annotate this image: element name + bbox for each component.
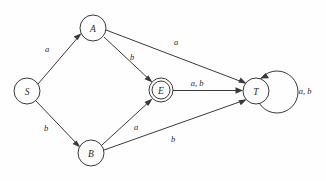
transition-label-a-to-e: b	[130, 52, 134, 62]
transition-b-to-t-arrowhead	[238, 99, 246, 105]
transition-a-to-e: b	[104, 37, 153, 83]
state-node-t[interactable]: T	[243, 78, 269, 104]
transition-label-s-to-b: b	[44, 123, 48, 133]
state-label-e: E	[157, 86, 164, 96]
state-label-t: T	[253, 87, 259, 97]
transition-s-to-a-arrowhead	[74, 33, 82, 40]
transition-e-to-t-arrowhead	[236, 87, 244, 93]
transition-label-e-to-t: a, b	[191, 78, 204, 88]
transition-e-to-t: a, b	[173, 78, 243, 94]
state-label-b: B	[88, 149, 94, 159]
transition-a-to-t: a	[106, 30, 247, 84]
transition-b-to-e: a	[102, 99, 153, 145]
fsm-diagram-canvas: a b b a a b	[0, 0, 326, 181]
state-label-a: A	[89, 24, 96, 34]
state-node-s[interactable]: S	[14, 78, 40, 104]
transition-s-to-b: b	[36, 101, 81, 148]
transition-label-a-to-t: a	[174, 37, 178, 47]
transition-s-to-a-line	[38, 35, 80, 84]
transition-s-to-b-line	[36, 101, 79, 146]
transition-label-b-to-t: b	[171, 134, 175, 144]
transition-label-s-to-a: a	[45, 44, 49, 54]
transition-b-to-t: b	[104, 99, 247, 150]
state-node-b[interactable]: B	[78, 140, 104, 166]
transition-b-to-e-line	[102, 100, 151, 145]
transition-a-to-e-line	[104, 37, 151, 81]
transition-t-self-loop-arrowhead	[261, 73, 270, 79]
state-label-s: S	[25, 87, 30, 97]
transition-label-t-self-loop: a, b	[299, 86, 312, 96]
state-node-e[interactable]: E	[149, 78, 173, 102]
transition-label-b-to-e: a	[134, 122, 138, 132]
state-node-a[interactable]: A	[80, 15, 106, 41]
transition-s-to-a: a	[38, 33, 82, 84]
fsm-diagram-svg: a b b a a b	[0, 0, 326, 181]
